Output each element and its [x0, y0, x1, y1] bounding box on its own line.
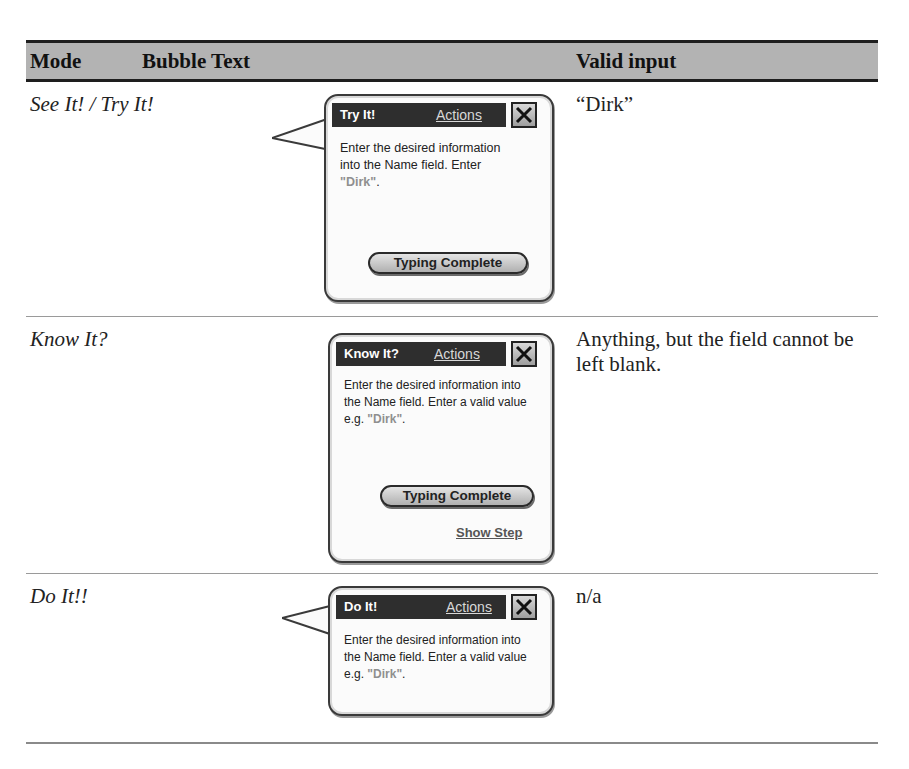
typing-complete-button[interactable]: Typing Complete	[368, 252, 528, 274]
show-step-link[interactable]: Show Step	[456, 525, 522, 540]
table-row: Do It!! Do It! Actions Enter the desired…	[26, 574, 878, 744]
bubble-title-bar: Try It! Actions	[332, 103, 506, 127]
body-suffix: .	[402, 667, 405, 681]
valid-input-cell: Anything, but the field cannot be left b…	[576, 327, 866, 377]
actions-link[interactable]: Actions	[436, 107, 482, 123]
close-x-icon	[513, 104, 535, 126]
bubble-body-text: Enter the desired information into the N…	[340, 140, 510, 191]
table-row: See It! / Try It! Try It! Actions Enter …	[26, 82, 878, 317]
try-it-bubble: Try It! Actions Enter the desired inform…	[324, 94, 554, 302]
bubble-body-text: Enter the desired information into the N…	[344, 632, 540, 683]
do-it-bubble: Do It! Actions Enter the desired informa…	[328, 586, 554, 716]
close-x-icon	[513, 596, 535, 618]
bubble-title: Do It!	[344, 599, 377, 614]
body-text: Enter the desired information into the N…	[340, 141, 501, 172]
header-valid-input: Valid input	[576, 49, 676, 74]
close-button[interactable]	[511, 341, 537, 367]
example-value: "Dirk"	[340, 175, 376, 189]
body-suffix: .	[376, 175, 379, 189]
mode-cell: Do It!!	[30, 584, 88, 609]
table-row: Know It? Know It? Actions Enter the desi…	[26, 317, 878, 574]
table-header: Mode Bubble Text Valid input	[26, 40, 878, 82]
mode-cell: Know It?	[30, 327, 108, 352]
bubble-title: Know It?	[344, 346, 399, 361]
actions-link[interactable]: Actions	[434, 346, 480, 362]
bubble-title-bar: Know It? Actions	[336, 342, 506, 366]
valid-input-cell: “Dirk”	[576, 92, 866, 117]
know-it-bubble: Know It? Actions Enter the desired infor…	[328, 333, 554, 563]
bubble-title: Try It!	[340, 107, 375, 122]
example-value: "Dirk"	[367, 412, 402, 426]
header-mode: Mode	[30, 49, 81, 74]
bubble-text-table: Mode Bubble Text Valid input See It! / T…	[26, 40, 878, 744]
header-bubble-text: Bubble Text	[142, 49, 250, 74]
example-value: "Dirk"	[367, 667, 402, 681]
close-button[interactable]	[511, 594, 537, 620]
bubble-body-text: Enter the desired information into the N…	[344, 377, 540, 428]
bubble-tail-icon	[282, 604, 332, 644]
typing-complete-button[interactable]: Typing Complete	[380, 485, 534, 507]
close-x-icon	[513, 343, 535, 365]
mode-cell: See It! / Try It!	[30, 92, 154, 117]
valid-input-cell: n/a	[576, 584, 866, 609]
close-button[interactable]	[511, 102, 537, 128]
bubble-tail-icon	[272, 116, 332, 156]
body-suffix: .	[402, 412, 405, 426]
bubble-title-bar: Do It! Actions	[336, 595, 506, 619]
actions-link[interactable]: Actions	[446, 599, 492, 615]
